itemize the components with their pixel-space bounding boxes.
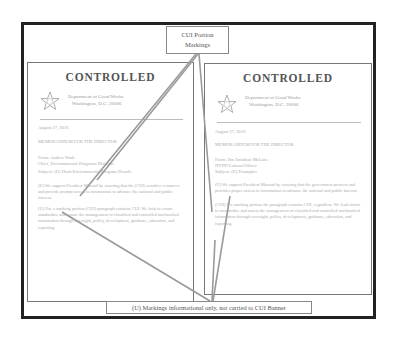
date: August 27, 2016 — [38, 125, 69, 131]
markings-informational-callout: (U) Markings informational only, not car… — [106, 301, 312, 314]
controlled-banner: CONTROLLED — [28, 71, 193, 83]
paragraph-1: (U) We support President Masond by ensur… — [38, 183, 183, 202]
star-seal-icon — [40, 91, 60, 111]
subject: Subject: (U) Draft Environmental Program… — [38, 169, 131, 175]
divider — [40, 119, 183, 120]
divider — [217, 122, 361, 123]
paragraph-2: (U) Use a marking portion (CUI) paragrap… — [38, 206, 183, 231]
paragraph-2: (CUI) If a marking portion the paragraph… — [215, 202, 361, 227]
memo-for: MEMORANDUM FOR THE DIRECTOR — [215, 142, 294, 148]
memo-for: MEMORANDUM FOR THE DIRECTOR — [38, 139, 117, 145]
star-seal-icon — [217, 94, 237, 114]
department-header: Department of Good Works Washington, D.C… — [68, 93, 123, 107]
controlled-banner: CONTROLLED — [205, 72, 371, 84]
cui-portion-markings-callout: CUI Portion Markings — [166, 26, 229, 54]
subject: Subject: (U) Examples — [215, 169, 257, 175]
date: August 27, 2016 — [215, 129, 246, 135]
document-right: CONTROLLED Department of Good Works Wash… — [204, 63, 372, 295]
department-header: Department of Good Works Washington, D.C… — [245, 94, 300, 108]
from-line-2: Chief, Environmental Programs Division — [38, 161, 114, 167]
document-left: CONTROLLED Department of Good Works Wash… — [27, 62, 194, 302]
paragraph-1: (U) We support President Masond by ensur… — [215, 182, 361, 194]
